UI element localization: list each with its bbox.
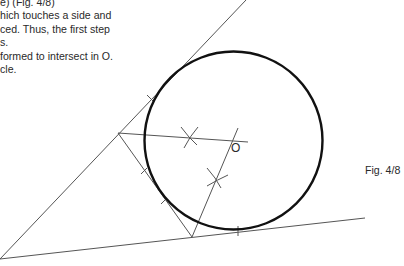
upper-side-line bbox=[0, 0, 246, 259]
tick-mark-upper bbox=[147, 95, 153, 101]
arc-cross-a-1 bbox=[181, 127, 197, 145]
figure-caption: Fig. 4/8 bbox=[365, 164, 400, 176]
geometry-figure bbox=[0, 0, 404, 266]
center-label: O bbox=[231, 141, 240, 155]
angle-bisector-a bbox=[118, 133, 248, 142]
transversal-line bbox=[118, 133, 192, 237]
